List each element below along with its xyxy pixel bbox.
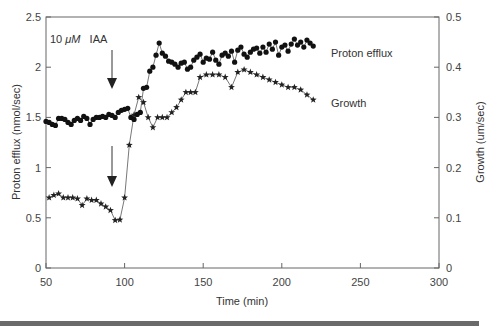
y-tick-label-left: 0.5	[26, 212, 41, 224]
star-marker-icon	[173, 104, 180, 111]
circle-marker-icon	[53, 123, 58, 128]
series-growth	[46, 66, 317, 223]
y-tick-label-left: 1	[35, 162, 41, 174]
y-tick-label-right: 0.2	[446, 162, 461, 174]
bottom-divider	[0, 321, 479, 326]
star-marker-icon	[272, 79, 279, 86]
circle-marker-icon	[157, 41, 162, 46]
star-marker-icon	[69, 194, 76, 201]
circle-marker-icon	[188, 65, 193, 70]
y-tick-label-right: 0.4	[446, 61, 461, 73]
circle-marker-icon	[298, 40, 303, 45]
star-marker-icon	[209, 71, 216, 78]
star-marker-icon	[216, 71, 223, 78]
star-marker-icon	[234, 69, 241, 76]
star-marker-icon	[253, 71, 260, 78]
x-tick-label: 150	[194, 276, 212, 288]
star-marker-icon	[83, 195, 90, 202]
star-marker-icon	[135, 94, 142, 101]
star-marker-icon	[197, 74, 204, 81]
circle-marker-icon	[257, 51, 262, 56]
circle-marker-icon	[182, 60, 187, 65]
star-marker-icon	[121, 194, 128, 201]
circle-marker-icon	[289, 42, 294, 47]
y-axis-label-left: Proton efflux (nmol/sec)	[10, 84, 22, 200]
circle-marker-icon	[226, 54, 231, 59]
circle-marker-icon	[125, 106, 130, 111]
star-marker-icon	[278, 81, 285, 88]
star-marker-icon	[79, 202, 86, 209]
circle-marker-icon	[163, 54, 168, 59]
y-tick-label-right: 0.3	[446, 111, 461, 123]
chart: 5010015020025030000.511.522.500.10.20.30…	[0, 0, 491, 326]
y-tick-label-left: 2.5	[26, 11, 41, 23]
star-marker-icon	[145, 114, 152, 121]
circle-marker-icon	[245, 55, 250, 60]
circle-marker-icon	[87, 122, 92, 127]
circle-marker-icon	[207, 57, 212, 62]
circle-marker-icon	[153, 53, 158, 58]
circle-marker-icon	[216, 62, 221, 67]
x-tick-label: 200	[273, 276, 291, 288]
y-tick-label-right: 0	[446, 262, 452, 274]
star-marker-icon	[74, 195, 81, 202]
star-marker-icon	[285, 84, 292, 91]
x-tick-label: 250	[351, 276, 369, 288]
circle-marker-icon	[301, 45, 306, 50]
star-marker-icon	[266, 76, 273, 83]
y-axis-label-right: Growth (um/sec)	[474, 101, 486, 182]
star-marker-icon	[112, 217, 119, 224]
circle-marker-icon	[267, 42, 272, 47]
star-marker-icon	[247, 69, 254, 76]
circle-marker-icon	[311, 44, 316, 49]
star-marker-icon	[192, 89, 199, 96]
circle-marker-icon	[232, 60, 237, 65]
y-tick-label-left: 1.5	[26, 111, 41, 123]
star-marker-icon	[222, 74, 229, 81]
x-axis-label: Time (min)	[216, 295, 268, 307]
circle-marker-icon	[282, 43, 287, 48]
star-marker-icon	[150, 124, 157, 131]
star-marker-icon	[310, 96, 317, 103]
circle-marker-icon	[260, 45, 265, 50]
arrow-down-icon	[107, 50, 117, 89]
star-marker-icon	[260, 74, 267, 81]
star-marker-icon	[117, 216, 124, 223]
series-line	[46, 39, 313, 125]
legend-growth: Growth	[331, 97, 366, 109]
star-marker-icon	[178, 96, 185, 103]
arrow-down-icon	[107, 146, 117, 187]
circle-marker-icon	[197, 52, 202, 57]
circle-marker-icon	[210, 50, 215, 55]
circle-marker-icon	[229, 49, 234, 54]
circle-marker-icon	[276, 53, 281, 58]
star-marker-icon	[107, 207, 114, 214]
circle-marker-icon	[138, 110, 143, 115]
star-marker-icon	[228, 84, 235, 91]
circle-marker-icon	[270, 47, 275, 52]
star-marker-icon	[241, 66, 248, 73]
y-tick-label-left: 2	[35, 61, 41, 73]
circle-marker-icon	[84, 116, 89, 121]
circle-marker-icon	[285, 49, 290, 54]
circle-marker-icon	[273, 40, 278, 45]
annotation-iaa-label: 10 μM IAA	[50, 33, 108, 45]
circle-marker-icon	[113, 115, 118, 120]
star-marker-icon	[46, 194, 53, 201]
star-marker-icon	[291, 84, 298, 91]
y-tick-label-right: 0.1	[446, 212, 461, 224]
circle-marker-icon	[263, 50, 268, 55]
circle-marker-icon	[144, 85, 149, 90]
circle-marker-icon	[254, 46, 259, 51]
legend-proton-efflux: Proton efflux	[331, 47, 393, 59]
x-tick-label: 100	[115, 276, 133, 288]
circle-marker-icon	[150, 65, 155, 70]
circle-marker-icon	[238, 45, 243, 50]
y-tick-label-left: 0	[35, 262, 41, 274]
circle-marker-icon	[292, 36, 297, 41]
star-marker-icon	[203, 71, 210, 78]
x-tick-label: 300	[430, 276, 448, 288]
y-tick-label-right: 0.5	[446, 11, 461, 23]
circle-marker-icon	[131, 117, 136, 122]
x-tick-label: 50	[40, 276, 52, 288]
